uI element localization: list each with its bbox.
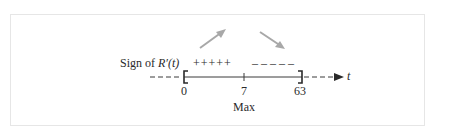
axis-variable-label: t: [347, 69, 350, 84]
positive-signs: +++++: [193, 56, 232, 71]
tick-label-7: 7: [241, 84, 247, 99]
sign-label: Sign of R′(t): [120, 56, 179, 71]
negative-signs: – – – – –: [252, 56, 294, 71]
tick-label-63: 63: [294, 84, 306, 99]
axis-arrowhead-icon: [334, 73, 344, 81]
decreasing-arrow-icon: [260, 32, 285, 49]
increasing-arrow-icon: [200, 29, 226, 48]
sign-label-prefix: Sign of: [120, 56, 158, 70]
tick-label-0: 0: [181, 84, 187, 99]
sign-label-function: R′(t): [158, 56, 179, 70]
max-label: Max: [233, 100, 255, 115]
